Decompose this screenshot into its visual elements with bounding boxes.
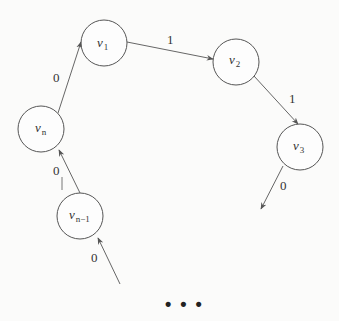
node-vn: vn [18,106,64,152]
node-v2: v2 [213,39,259,85]
edge-label-in-vn-1: 0 [91,250,98,265]
node-vn-1: vn−1 [57,193,103,239]
edge-label-vn-1-vn: 0 [53,163,60,178]
edge-label-vn-v1: 0 [53,70,60,85]
edge-label-v2-v3: 1 [289,91,296,106]
edge-continuation-to-vn-1 [98,238,120,284]
state-diagram: 0 1 1 0 0 0 v1 v2 v3 vn vn−1 [0,0,339,321]
edge-vn-to-v1 [58,42,81,113]
node-v1: v1 [81,20,127,66]
edges [58,42,298,284]
node-v3: v3 [277,124,323,170]
ellipsis: • • • [165,294,204,314]
edge-label-v1-v2: 1 [167,32,174,47]
edge-label-v3-out: 0 [280,178,287,193]
